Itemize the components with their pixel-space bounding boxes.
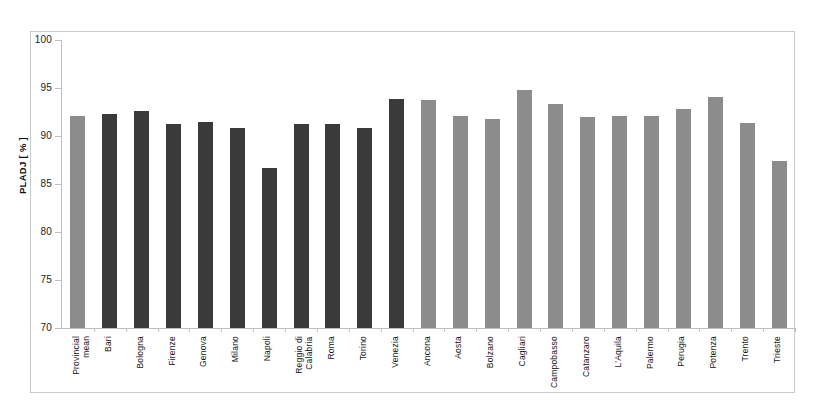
x-axis-tick <box>317 328 318 332</box>
bar[interactable] <box>230 128 245 328</box>
y-axis-tick <box>55 184 61 185</box>
y-axis-tick-label: 85 <box>12 179 52 189</box>
x-axis-tick <box>381 328 382 332</box>
y-axis-tick-label-text: 85 <box>16 179 52 189</box>
y-axis-tick <box>55 136 61 137</box>
bar[interactable] <box>198 122 213 328</box>
x-axis-tick <box>508 328 509 332</box>
x-axis-tick <box>158 328 159 332</box>
y-axis-tick-label-text: 75 <box>16 275 52 285</box>
y-axis-tick-label-text: 100 <box>16 35 52 45</box>
x-axis-tick-label: Firenze <box>168 336 178 366</box>
bar[interactable] <box>740 123 755 328</box>
y-axis-tick-label: 100 <box>12 35 52 45</box>
x-axis-tick-label: Bolzano <box>486 336 496 368</box>
x-axis-tick-label: Torino <box>359 336 369 360</box>
x-axis-tick-label: L'Aquila <box>614 336 624 368</box>
x-axis-tick-label: Bari <box>104 336 114 352</box>
x-axis-tick-label: Campobasso <box>550 336 560 388</box>
bar[interactable] <box>262 168 277 328</box>
x-axis-tick <box>540 328 541 332</box>
x-axis-tick-label: Trento <box>741 336 751 361</box>
x-axis-tick-label: Aosta <box>454 336 464 359</box>
y-axis-tick-label-text: 70 <box>16 323 52 333</box>
chart-figure: PLADJ [ % ] 707580859095100 Provincial m… <box>0 0 826 416</box>
bar[interactable] <box>421 100 436 328</box>
x-axis-tick <box>413 328 414 332</box>
x-axis-tick <box>668 328 669 332</box>
x-axis-tick-label: Catanzaro <box>582 336 592 377</box>
bar[interactable] <box>708 97 723 328</box>
x-axis-tick <box>699 328 700 332</box>
bar[interactable] <box>772 161 787 328</box>
y-axis-tick-label: 70 <box>12 323 52 333</box>
x-axis-tick <box>572 328 573 332</box>
x-axis-tick-label: Venezia <box>391 336 401 368</box>
x-axis-tick-label: Perugia <box>677 336 687 367</box>
x-axis-tick <box>731 328 732 332</box>
x-axis-tick <box>126 328 127 332</box>
bar[interactable] <box>70 116 85 328</box>
x-axis-tick <box>604 328 605 332</box>
x-axis-tick <box>285 328 286 332</box>
x-axis-tick-label: Roma <box>327 336 337 359</box>
bar[interactable] <box>357 128 372 328</box>
x-axis-line <box>61 328 795 329</box>
x-axis-tick <box>189 328 190 332</box>
x-axis-tick-label: Napoli <box>263 336 273 361</box>
y-axis-tick <box>55 40 61 41</box>
bar[interactable] <box>166 124 181 328</box>
y-axis-tick-label-text: 90 <box>16 131 52 141</box>
y-axis-tick-label: 95 <box>12 83 52 93</box>
x-axis-tick <box>253 328 254 332</box>
x-axis-tick <box>221 328 222 332</box>
x-axis-tick-label: Ancona <box>423 336 433 366</box>
bar[interactable] <box>580 117 595 328</box>
plot-area <box>62 40 795 328</box>
bar[interactable] <box>644 116 659 328</box>
y-axis-tick-label: 90 <box>12 131 52 141</box>
bar[interactable] <box>102 114 117 328</box>
x-axis-tick-label: Cagliari <box>518 336 528 366</box>
bar[interactable] <box>548 104 563 328</box>
y-axis-tick <box>55 88 61 89</box>
x-axis-tick <box>636 328 637 332</box>
x-axis-tick <box>763 328 764 332</box>
bar[interactable] <box>389 99 404 328</box>
x-axis-tick-label: Genova <box>199 336 209 367</box>
x-axis-tick-label: Reggio di Calabria <box>295 336 314 374</box>
x-axis-tick-label: Bologna <box>136 336 146 369</box>
x-axis-tick <box>444 328 445 332</box>
y-axis-tick <box>55 280 61 281</box>
x-axis-tick-label: Potenza <box>709 336 719 369</box>
y-axis-tick-label-text: 95 <box>16 83 52 93</box>
y-axis-tick-label: 80 <box>12 227 52 237</box>
bar[interactable] <box>134 111 149 328</box>
x-axis-tick-label: Provincial mean <box>72 336 91 375</box>
bar[interactable] <box>294 124 309 328</box>
x-axis-tick-label: Milano <box>231 336 241 362</box>
bar[interactable] <box>517 90 532 328</box>
bar[interactable] <box>485 119 500 328</box>
x-axis-tick <box>795 328 796 332</box>
bar[interactable] <box>612 116 627 328</box>
y-axis-tick <box>55 328 61 329</box>
y-axis-tick <box>55 232 61 233</box>
x-axis-tick <box>476 328 477 332</box>
x-axis-tick <box>349 328 350 332</box>
x-axis-tick <box>94 328 95 332</box>
bar[interactable] <box>453 116 468 328</box>
x-axis-tick-label: Palermo <box>646 336 656 369</box>
y-axis-tick-label-text: 80 <box>16 227 52 237</box>
x-axis-tick-label: Trieste <box>773 336 783 363</box>
bar[interactable] <box>676 109 691 328</box>
y-axis-tick-label: 75 <box>12 275 52 285</box>
bar[interactable] <box>325 124 340 328</box>
